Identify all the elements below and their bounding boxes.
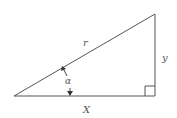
label-x: X (82, 104, 91, 115)
right-angle-marker (145, 86, 155, 96)
right-triangle-diagram: r y α X (0, 0, 177, 118)
hypotenuse-side (14, 14, 155, 96)
label-r: r (83, 37, 89, 48)
label-y: y (161, 52, 168, 63)
angle-arrow-up-icon (61, 66, 67, 76)
label-alpha: α (65, 76, 71, 86)
angle-arrow-down-icon (67, 88, 73, 96)
